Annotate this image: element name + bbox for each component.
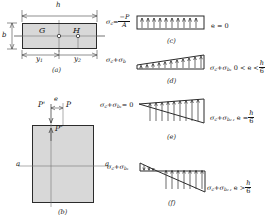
figure-c-denominator: A — [118, 22, 130, 29]
figure-d-left-label: σc+σb — [106, 56, 126, 64]
figure-f-caption: (f) — [168, 199, 175, 207]
figure-e-equality: , e = — [233, 114, 249, 122]
figure-a-caption: (a) — [52, 66, 61, 74]
figure-b-eccentricity-label: e — [54, 95, 58, 103]
figure-a-point-h-label: H — [73, 26, 80, 35]
figure-d-fraction: h6 — [259, 60, 265, 74]
figure-f-left-plus-sub: b₁ — [124, 166, 129, 171]
figure-a-dim-y2: y2 — [74, 55, 81, 63]
figure-e-left-label: σc+σb₁= 0 — [100, 101, 133, 109]
figure-b-load-left-label: P' — [38, 100, 45, 109]
figure-d-stress-block — [137, 55, 217, 79]
figure-a-point-g-label: G — [39, 26, 45, 35]
figure-e-cond-den: 6 — [248, 118, 254, 125]
figure-b-caption: (b) — [58, 208, 67, 216]
figure-c-stress-formula: σc=−PA — [106, 14, 130, 28]
figure-a-height-label: b — [2, 31, 6, 39]
figure-c-caption: (c) — [167, 37, 176, 45]
figure-d-left-plus: +σ — [113, 56, 123, 64]
figure-e-caption: (e) — [167, 133, 176, 141]
figure-c-fraction: −PA — [118, 14, 130, 28]
figure-b-annotations — [0, 95, 140, 220]
figure-e-stress-block — [139, 99, 219, 129]
figure-a-centroid-axes — [0, 0, 135, 60]
figure-f-left-label: σc+σb₁ — [107, 163, 129, 171]
figure-f-cond-den: 6 — [245, 188, 251, 195]
figure-f-condition: σc+σb₂, e >h6 — [207, 180, 251, 194]
figure-d-condition: σc+σb₁0 < e <h6 — [210, 60, 265, 74]
figure-d-right-plus-sub: b₁ — [227, 67, 232, 72]
figure-e-condition: σc+σb₂, e =h6 — [210, 110, 254, 124]
figure-a-dim-y2-sub: 2 — [78, 58, 81, 63]
figure-f-left-plus: +σ — [114, 163, 124, 171]
figure-c-stress-block — [137, 16, 217, 38]
figure-f-fraction: h6 — [245, 180, 251, 194]
figure-e-left-equals: = 0 — [122, 101, 134, 109]
figure-f-right-plus-sub: b₂ — [224, 187, 229, 192]
figure-a-width-label: h — [56, 1, 61, 9]
figure-d-inequality: 0 < e < — [234, 64, 259, 72]
figure-f-right-plus: +σ — [214, 184, 224, 192]
figure-f-inequality: , e > — [230, 184, 246, 192]
figure-d-right-plus: +σ — [217, 64, 227, 72]
figure-b-section-left-label: a — [16, 160, 20, 168]
figure-e-right-plus-sub: b₂ — [227, 117, 232, 122]
figure-a-dim-y1-sub: 1 — [40, 58, 43, 63]
figure-e-fraction: h6 — [248, 110, 254, 124]
figure-a-dim-y1: y1 — [36, 55, 43, 63]
figure-d-caption: (d) — [167, 77, 176, 85]
figure-c-condition: e = 0 — [211, 22, 229, 30]
figure-e-right-plus: +σ — [217, 114, 227, 122]
figure-d-cond-den: 6 — [259, 68, 265, 75]
figure-d-left-plus-sub: b — [123, 59, 126, 64]
figure-b-internal-force-label: P″ — [55, 124, 63, 133]
figure-b-load-right-label: P — [66, 100, 71, 109]
figure-e-left-plus: +σ — [107, 101, 117, 109]
